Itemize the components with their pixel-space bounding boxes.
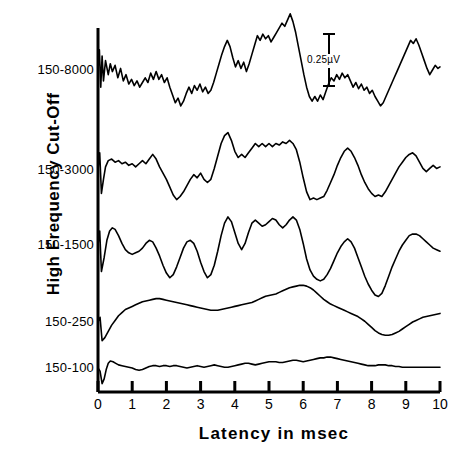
x-tick-label: 0	[86, 396, 110, 412]
trace-label: 150-1500	[37, 237, 94, 252]
evoked-potential-figure: High Frequency Cut-Off Latency in msec 0…	[0, 0, 464, 460]
x-tick-label: 5	[257, 396, 281, 412]
scale-bar-label: 0.25µV	[307, 54, 340, 65]
trace-label: 150-3000	[37, 162, 94, 177]
x-tick-label: 4	[223, 396, 247, 412]
trace-group	[98, 14, 440, 384]
x-tick-label: 10	[428, 396, 452, 412]
waveform-trace	[98, 133, 440, 200]
waveform-trace	[98, 217, 440, 297]
x-tick-label: 9	[394, 396, 418, 412]
x-tick-label: 8	[360, 396, 384, 412]
x-tick-label: 7	[325, 396, 349, 412]
trace-label: 150-250	[45, 314, 94, 329]
axes-group	[98, 28, 440, 392]
x-tick-label: 6	[291, 396, 315, 412]
x-tick-label: 3	[189, 396, 213, 412]
waveform-trace	[98, 285, 440, 340]
waveform-trace	[98, 357, 440, 384]
x-tick-label: 1	[120, 396, 144, 412]
trace-label: 150-8000	[37, 62, 94, 77]
waveform-trace	[98, 14, 440, 106]
trace-label: 150-100	[45, 360, 94, 375]
x-tick-label: 2	[154, 396, 178, 412]
x-axis-ticks	[98, 381, 440, 392]
